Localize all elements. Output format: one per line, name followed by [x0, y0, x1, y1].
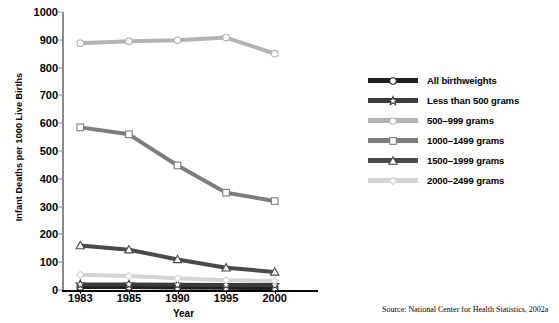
legend-key	[368, 155, 418, 166]
legend-item[interactable]: 2000–2499 grams	[368, 172, 558, 189]
series-layer	[62, 12, 305, 290]
circle-marker	[174, 37, 181, 44]
y-tick-mark	[58, 290, 62, 291]
diamond-marker	[125, 272, 132, 279]
chart-legend: All birthweightsLess than 500 grams500–9…	[368, 72, 558, 192]
circle-marker	[77, 40, 84, 47]
legend-label: 500–999 grams	[427, 115, 494, 126]
y-tick-mark	[58, 206, 62, 207]
legend-key	[368, 175, 418, 186]
legend-marker	[386, 134, 400, 148]
circle-marker	[223, 34, 230, 41]
x-tick-label: 1983	[68, 292, 92, 304]
diamond-marker	[77, 271, 84, 278]
x-tick-label: 1990	[165, 292, 189, 304]
y-tick-mark	[58, 234, 62, 235]
legend-label: All birthweights	[427, 75, 497, 86]
square-marker	[390, 137, 397, 144]
diamond-marker	[222, 277, 229, 284]
series-500-999-grams	[77, 34, 278, 57]
circle-marker	[390, 77, 397, 84]
legend-marker	[386, 174, 400, 188]
square-marker	[223, 189, 230, 196]
diamond-marker	[174, 275, 181, 282]
legend-marker	[386, 114, 400, 128]
y-tick-mark	[58, 123, 62, 124]
square-marker	[77, 124, 84, 131]
y-tick-mark	[58, 178, 62, 179]
y-tick-label: 200	[18, 228, 58, 240]
source-note: Source: National Center for Health Stati…	[382, 305, 558, 314]
star-marker	[389, 96, 397, 104]
y-tick-mark	[58, 39, 62, 40]
legend-item[interactable]: Less than 500 grams	[368, 92, 558, 109]
y-tick-mark	[58, 262, 62, 263]
legend-label: 2000–2499 grams	[427, 175, 504, 186]
legend-label: 1000–1499 grams	[427, 135, 504, 146]
square-marker	[126, 131, 133, 138]
legend-item[interactable]: All birthweights	[368, 72, 558, 89]
y-tick-label: 800	[18, 62, 58, 74]
series-1000-1499-grams	[77, 124, 278, 204]
plot-area	[62, 12, 305, 290]
diamond-marker	[389, 177, 396, 184]
series-1500-1999-grams	[76, 241, 279, 275]
x-tick-label: 1995	[214, 292, 238, 304]
y-tick-label: 600	[18, 117, 58, 129]
y-tick-mark	[58, 95, 62, 96]
x-axis-title: Year	[62, 308, 305, 319]
y-tick-label: 300	[18, 201, 58, 213]
y-tick-mark	[58, 12, 62, 13]
y-tick-label: 900	[18, 34, 58, 46]
triangle-marker	[389, 156, 397, 163]
y-tick-label: 500	[18, 145, 58, 157]
legend-marker	[386, 74, 400, 88]
circle-marker	[271, 50, 278, 57]
y-tick-label: 1000	[18, 6, 58, 18]
legend-item[interactable]: 1000–1499 grams	[368, 132, 558, 149]
y-tick-label: 700	[18, 89, 58, 101]
square-marker	[271, 198, 278, 205]
legend-key	[368, 95, 418, 106]
legend-label: Less than 500 grams	[427, 95, 519, 106]
legend-marker	[386, 94, 400, 108]
legend-key	[368, 115, 418, 126]
y-tick-mark	[58, 151, 62, 152]
infant-mortality-line-chart: Infant Deaths per 1000 Live Births 01002…	[0, 0, 559, 323]
legend-item[interactable]: 500–999 grams	[368, 112, 558, 129]
y-tick-label: 100	[18, 256, 58, 268]
legend-key	[368, 135, 418, 146]
x-tick-label: 1985	[117, 292, 141, 304]
circle-marker	[126, 38, 133, 45]
x-tick-label: 2000	[262, 292, 286, 304]
legend-key	[368, 75, 418, 86]
legend-marker	[386, 154, 400, 168]
x-axis-tick-labels: 19831985199019952000	[62, 292, 318, 308]
circle-marker	[390, 117, 397, 124]
y-tick-label: 0	[18, 284, 58, 296]
square-marker	[174, 162, 181, 169]
y-tick-label: 400	[18, 173, 58, 185]
y-tick-mark	[58, 67, 62, 68]
legend-label: 1500–1999 grams	[427, 155, 504, 166]
y-axis-tick-labels: 01002003004005006007008009001000	[18, 0, 58, 300]
legend-item[interactable]: 1500–1999 grams	[368, 152, 558, 169]
